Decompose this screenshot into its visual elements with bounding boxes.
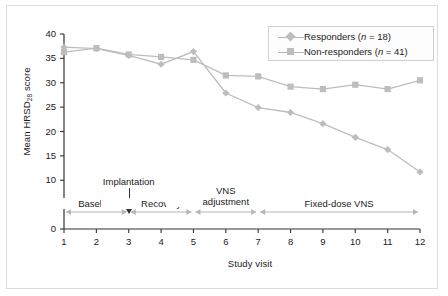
x-tick-1: 1 — [55, 236, 73, 247]
x-tick-9: 9 — [314, 236, 332, 247]
y-tick-15: 15 — [34, 150, 56, 161]
data-point — [223, 72, 229, 78]
y-tick-10: 10 — [34, 174, 56, 185]
data-point — [385, 86, 391, 92]
data-point — [287, 84, 293, 90]
data-point — [126, 51, 132, 57]
data-point — [352, 134, 359, 141]
data-point — [158, 54, 164, 60]
phase-label-fixed-dose-vns: Fixed-dose VNS — [279, 198, 399, 209]
data-point — [287, 109, 294, 116]
y-tick-30: 30 — [34, 77, 56, 88]
phase-label-vns-adjustment: VNSadjustment — [166, 185, 286, 207]
x-tick-7: 7 — [249, 236, 267, 247]
data-point — [320, 86, 326, 92]
x-tick-2: 2 — [87, 236, 105, 247]
legend-label-non-responders: Non-responders (n = 41) — [304, 45, 408, 59]
x-tick-8: 8 — [282, 236, 300, 247]
series-layer — [60, 44, 423, 176]
legend-label-responders: Responders (n = 18) — [304, 30, 391, 44]
x-tick-12: 12 — [411, 236, 429, 247]
x-tick-4: 4 — [152, 236, 170, 247]
data-point — [352, 82, 358, 88]
x-tick-6: 6 — [217, 236, 235, 247]
legend-item-non-responders[interactable]: Non-responders (n = 41) — [274, 45, 408, 59]
data-point — [255, 73, 261, 79]
x-tick-3: 3 — [120, 236, 138, 247]
chart-figure: Mean HRSD28 score Study visit 0510152025… — [0, 0, 448, 296]
phase-brackets — [66, 209, 418, 215]
y-tick-40: 40 — [34, 28, 56, 39]
x-tick-5: 5 — [184, 236, 202, 247]
data-point — [157, 61, 164, 68]
y-tick-25: 25 — [34, 101, 56, 112]
square-marker-icon — [287, 48, 294, 55]
x-tick-10: 10 — [346, 236, 364, 247]
data-point — [93, 45, 99, 51]
y-tick-0: 0 — [34, 223, 56, 234]
y-tick-35: 35 — [34, 52, 56, 63]
diamond-marker-icon — [286, 32, 296, 42]
legend: Responders (n = 18) Non-responders (n = … — [268, 26, 434, 61]
data-point — [255, 104, 262, 111]
legend-item-responders[interactable]: Responders (n = 18) — [274, 30, 391, 44]
data-point — [61, 49, 67, 55]
data-point — [190, 57, 196, 63]
data-point — [319, 120, 326, 127]
x-tick-11: 11 — [379, 236, 397, 247]
series-responders — [60, 44, 423, 176]
y-tick-20: 20 — [34, 126, 56, 137]
data-point — [417, 77, 423, 83]
